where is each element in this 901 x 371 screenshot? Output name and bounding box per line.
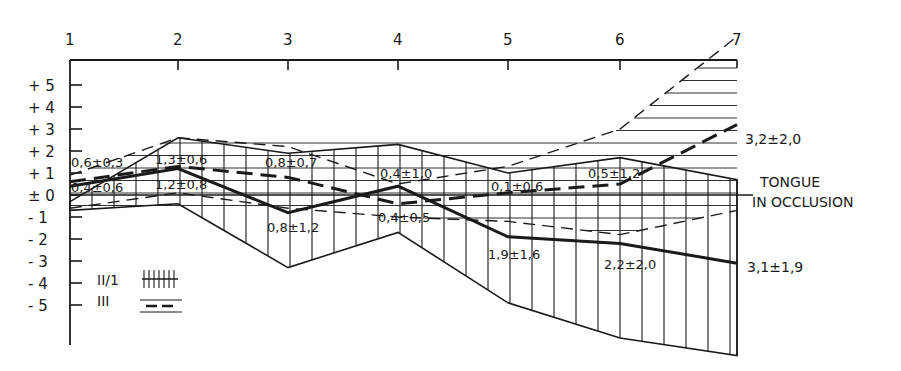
annotation-ii-4: 0,4±1,0 xyxy=(380,166,432,181)
x-tick-label: 3 xyxy=(283,31,293,49)
annotation-ii-5: 1,9±1,6 xyxy=(488,247,540,262)
y-tick-label: - 1 xyxy=(28,209,48,227)
bands xyxy=(70,37,737,356)
annotation-iii-1: 0,6±0,3 xyxy=(71,155,123,170)
annotation-iii-4: 0,4±0,5 xyxy=(378,210,430,225)
x-tick-label: 7 xyxy=(732,31,742,49)
chart: 1234567+ 5+ 4+ 3+ 2+ 1± 0- 1- 2- 3- 4- 5… xyxy=(0,0,901,371)
annotation-ii-6: 2,2±2,0 xyxy=(604,257,656,272)
annotation-iii-2: 1,3±0,6 xyxy=(155,152,207,167)
legend-label-iii: III xyxy=(97,293,109,309)
ref-label-line1: TONGUE xyxy=(759,174,820,190)
legend xyxy=(140,270,182,312)
y-tick-label: - 4 xyxy=(28,275,48,293)
y-tick-label: - 5 xyxy=(28,297,48,315)
y-tick-label: ± 0 xyxy=(28,187,55,205)
annotation-ii-3: 0,8±1,2 xyxy=(267,220,319,235)
x-tick-label: 5 xyxy=(503,31,513,49)
annotation-ii-2: 1,2±0,8 xyxy=(155,177,207,192)
labels: TONGUE IN OCCLUSION 0,6±0,3 1,3±0,6 0,8±… xyxy=(71,131,853,309)
x-tick-label: 6 xyxy=(615,31,625,49)
y-tick-label: + 1 xyxy=(28,165,55,183)
annotation-iii-7: 3,2±2,0 xyxy=(745,131,801,147)
y-tick-label: + 4 xyxy=(28,99,55,117)
y-tick-label: + 2 xyxy=(28,143,55,161)
annotation-ii-7: 3,1±1,9 xyxy=(747,259,803,275)
x-tick-label: 1 xyxy=(65,31,75,49)
x-tick-label: 2 xyxy=(173,31,183,49)
annotation-iii-6: 0,5±1,2 xyxy=(588,166,640,181)
annotation-iii-5: 0,1±0,6 xyxy=(491,179,543,194)
annotation-iii-3: 0,8±0,7 xyxy=(265,155,317,170)
ref-label-line2: IN OCCLUSION xyxy=(752,194,853,210)
annotation-ii-1: 0,4±0,6 xyxy=(71,180,123,195)
legend-label-ii: II/1 xyxy=(97,272,119,288)
x-tick-label: 4 xyxy=(393,31,403,49)
y-tick-label: + 3 xyxy=(28,121,55,139)
y-tick-label: + 5 xyxy=(28,77,55,95)
y-tick-label: - 2 xyxy=(28,231,48,249)
y-tick-label: - 3 xyxy=(28,253,48,271)
